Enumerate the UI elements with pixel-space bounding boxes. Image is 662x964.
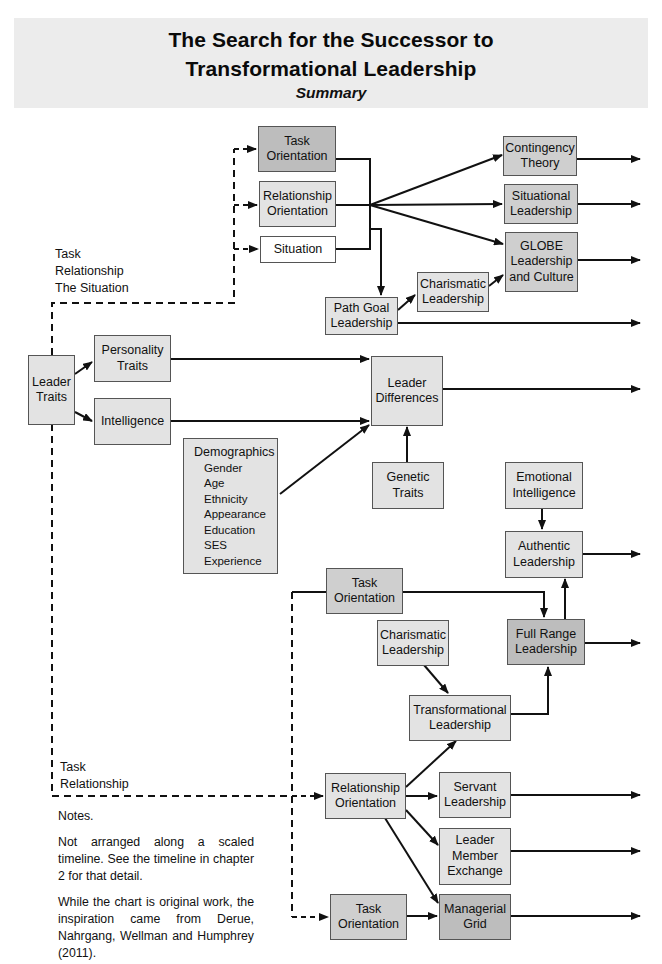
notes-heading: Notes.: [58, 808, 254, 825]
node-label: Leadership: [510, 204, 572, 220]
node-label: Leadership: [422, 292, 484, 308]
node-task-orientation-mid: Task Orientation: [326, 568, 403, 614]
node-transformational: Transformational Leadership: [409, 695, 511, 741]
node-situation: Situation: [260, 236, 336, 263]
node-leader-differences: Leader Differences: [371, 356, 443, 426]
demographics-item: SES: [184, 538, 227, 554]
node-situational-leadership: Situational Leadership: [504, 184, 578, 224]
demographics-item: Experience: [184, 554, 262, 570]
node-label: Leader: [388, 376, 427, 392]
node-full-range: Full Range Leadership: [507, 619, 585, 665]
node-emotional-intelligence: Emotional Intelligence: [505, 462, 583, 509]
node-leader-traits: Leader Traits: [28, 355, 75, 425]
node-personality-traits: Personality Traits: [94, 335, 171, 382]
node-task-orientation-bottom: Task Orientation: [330, 894, 407, 940]
node-genetic-traits: Genetic Traits: [372, 462, 444, 509]
node-label: Leadership: [511, 254, 573, 270]
node-label: Task: [284, 134, 310, 150]
node-label: Servant: [453, 780, 496, 796]
node-label: Task: [352, 576, 378, 592]
demographics-item: Ethnicity: [184, 492, 247, 508]
upper-branch-label: Task Relationship The Situation: [55, 246, 129, 297]
node-label: Theory: [521, 156, 560, 172]
node-globe: GLOBE Leadership and Culture: [505, 232, 578, 292]
node-charismatic-top: Charismatic Leadership: [417, 272, 489, 312]
lower-branch-label: Task Relationship: [60, 759, 129, 793]
node-label: Full Range: [516, 627, 576, 643]
node-label: Leader: [456, 833, 495, 849]
node-managerial-grid: Managerial Grid: [439, 894, 511, 940]
node-label: Situational: [512, 189, 570, 205]
node-label: Differences: [376, 391, 439, 407]
demographics-item: Age: [184, 476, 224, 492]
node-path-goal: Path Goal Leadership: [325, 297, 398, 335]
node-relationship-orientation-top: Relationship Orientation: [259, 181, 336, 227]
node-label: Personality: [102, 343, 164, 359]
node-label: GLOBE: [520, 239, 563, 255]
node-label: Charismatic: [420, 277, 486, 293]
node-intelligence: Intelligence: [94, 398, 171, 445]
node-label: Exchange: [447, 864, 503, 880]
node-label: Transformational: [413, 703, 506, 719]
demographics-item: Gender: [184, 461, 242, 477]
node-label: Path Goal: [334, 301, 390, 317]
node-label: Leader: [32, 375, 71, 391]
node-label: Relationship: [331, 781, 400, 797]
node-label: Orientation: [266, 149, 327, 165]
notes: Notes. Not arranged along a scaled timel…: [58, 808, 254, 964]
node-label: Orientation: [267, 204, 328, 220]
node-label: and Culture: [509, 270, 574, 286]
node-label: Traits: [36, 390, 67, 406]
node-label: Charismatic: [380, 628, 446, 644]
node-label: Intelligence: [101, 414, 164, 430]
node-leader-member-exchange: Leader Member Exchange: [439, 828, 511, 885]
node-authentic-leadership: Authentic Leadership: [505, 531, 583, 578]
node-label: Situation: [274, 242, 323, 258]
demographics-heading: Demographics: [184, 445, 275, 461]
node-label: Leadership: [444, 795, 506, 811]
node-label: Authentic: [518, 539, 570, 555]
node-label: Leadership: [331, 316, 393, 332]
demographics-item: Education: [184, 523, 255, 539]
notes-paragraph-2: While the chart is original work, the in…: [58, 894, 254, 962]
node-label: Leadership: [513, 555, 575, 571]
notes-paragraph-1: Not arranged along a scaled timeline. Se…: [58, 834, 254, 885]
node-label: Orientation: [338, 917, 399, 933]
node-label: Intelligence: [512, 486, 575, 502]
node-servant: Servant Leadership: [439, 772, 511, 818]
node-label: Orientation: [334, 591, 395, 607]
node-label: Contingency: [505, 141, 575, 157]
node-charismatic-mid: Charismatic Leadership: [377, 620, 449, 666]
node-relationship-orientation-bottom: Relationship Orientation: [325, 773, 406, 819]
node-label: Grid: [463, 917, 487, 933]
node-label: Leadership: [515, 642, 577, 658]
node-task-orientation-top: Task Orientation: [258, 126, 336, 172]
node-label: Genetic: [386, 470, 429, 486]
node-demographics: Demographics Gender Age Ethnicity Appear…: [183, 438, 278, 574]
node-contingency-theory: Contingency Theory: [503, 136, 577, 176]
demographics-item: Appearance: [184, 507, 266, 523]
node-label: Managerial: [444, 902, 506, 918]
node-label: Orientation: [335, 796, 396, 812]
node-label: Traits: [393, 486, 424, 502]
node-label: Emotional: [516, 470, 572, 486]
node-label: Leadership: [382, 643, 444, 659]
node-label: Traits: [117, 359, 148, 375]
node-label: Relationship: [263, 189, 332, 205]
node-label: Task: [356, 902, 382, 918]
node-label: Member: [452, 849, 498, 865]
node-label: Leadership: [429, 718, 491, 734]
